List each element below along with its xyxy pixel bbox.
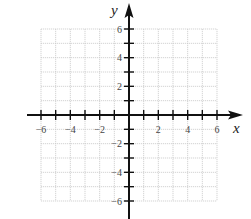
x-tick-label: −2 (94, 124, 105, 135)
x-tick-label: 4 (185, 124, 190, 135)
x-tick-label: 6 (215, 124, 220, 135)
x-tick-label: 2 (156, 124, 161, 135)
y-tick-label: 6 (117, 24, 122, 35)
y-tick-label: 2 (117, 81, 122, 92)
x-tick-label: −6 (36, 124, 47, 135)
y-tick-label: −4 (111, 167, 122, 178)
y-axis (124, 3, 134, 219)
y-axis-label: y (109, 2, 118, 18)
x-axis (27, 110, 243, 120)
y-tick-label: 4 (117, 52, 122, 63)
coordinate-plane: x y −6 −4 −2 2 4 6 6 4 2 −2 −4 −6 (0, 0, 251, 219)
y-tick-label: −2 (111, 138, 122, 149)
x-tick-label: −4 (65, 124, 76, 135)
y-tick-label: −6 (111, 196, 122, 207)
x-axis-label: x (232, 120, 240, 136)
